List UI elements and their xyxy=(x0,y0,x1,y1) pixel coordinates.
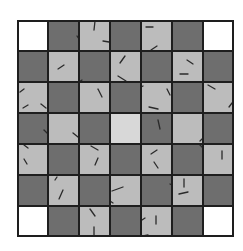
grid-cell-light xyxy=(17,144,48,175)
grid-cell-dark xyxy=(48,82,79,113)
grid-cell-light xyxy=(17,82,48,113)
grid-cell-dark xyxy=(141,113,172,144)
grid-cell-white xyxy=(203,206,234,237)
grid-cell-dark xyxy=(110,144,141,175)
grid-cell-dark xyxy=(203,51,234,82)
grid-cell-dark xyxy=(172,144,203,175)
grid-cell-dark xyxy=(79,113,110,144)
grid-cell-white xyxy=(203,20,234,51)
grid-cell-dark xyxy=(172,82,203,113)
grid-cell-dark xyxy=(17,175,48,206)
grid-cell-light xyxy=(79,82,110,113)
grid-cell-light xyxy=(172,51,203,82)
grid-cell-dark xyxy=(203,113,234,144)
grid-cell-dark xyxy=(110,82,141,113)
grid-cell-white xyxy=(17,20,48,51)
grid-cell-dark xyxy=(17,51,48,82)
checkerboard-grid xyxy=(17,20,234,237)
grid-cell-light xyxy=(48,175,79,206)
grid-cell-dark xyxy=(79,51,110,82)
grid-cell-dark xyxy=(17,113,48,144)
grid-cell-light xyxy=(141,144,172,175)
grid-cell-dark xyxy=(110,206,141,237)
grid-cell-dark xyxy=(141,175,172,206)
grid-cell-dark xyxy=(172,206,203,237)
grid-cell-light xyxy=(48,51,79,82)
grid-cell-dark xyxy=(79,175,110,206)
grid-cell-dark xyxy=(141,51,172,82)
grid-cell-dark xyxy=(48,144,79,175)
grid-cell-white xyxy=(17,206,48,237)
grid-cell-light xyxy=(203,82,234,113)
grid-cell-light xyxy=(203,144,234,175)
grid-canvas xyxy=(17,20,234,237)
grid-cell-dark xyxy=(172,20,203,51)
grid-cell-dark xyxy=(203,175,234,206)
grid-cell-dark xyxy=(110,20,141,51)
grid-cell-light xyxy=(48,113,79,144)
grid-cell-dark xyxy=(48,20,79,51)
grid-cell-center xyxy=(110,113,141,144)
grid-cell-light xyxy=(172,175,203,206)
grid-cell-dark xyxy=(48,206,79,237)
cells-layer xyxy=(17,20,234,237)
grid-cell-light xyxy=(172,113,203,144)
